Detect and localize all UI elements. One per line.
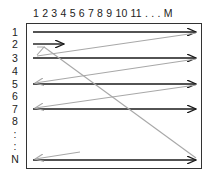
diagonal-return-to-n [44, 47, 196, 158]
return-arrow-5-to-7 [35, 85, 196, 108]
scan-path-arrows [0, 0, 216, 180]
return-zigzag-row-2 [37, 47, 44, 55]
return-scan-arrows [35, 33, 196, 159]
return-arrow-row-n [35, 152, 80, 159]
return-arrow-3-to-5 [35, 59, 196, 83]
